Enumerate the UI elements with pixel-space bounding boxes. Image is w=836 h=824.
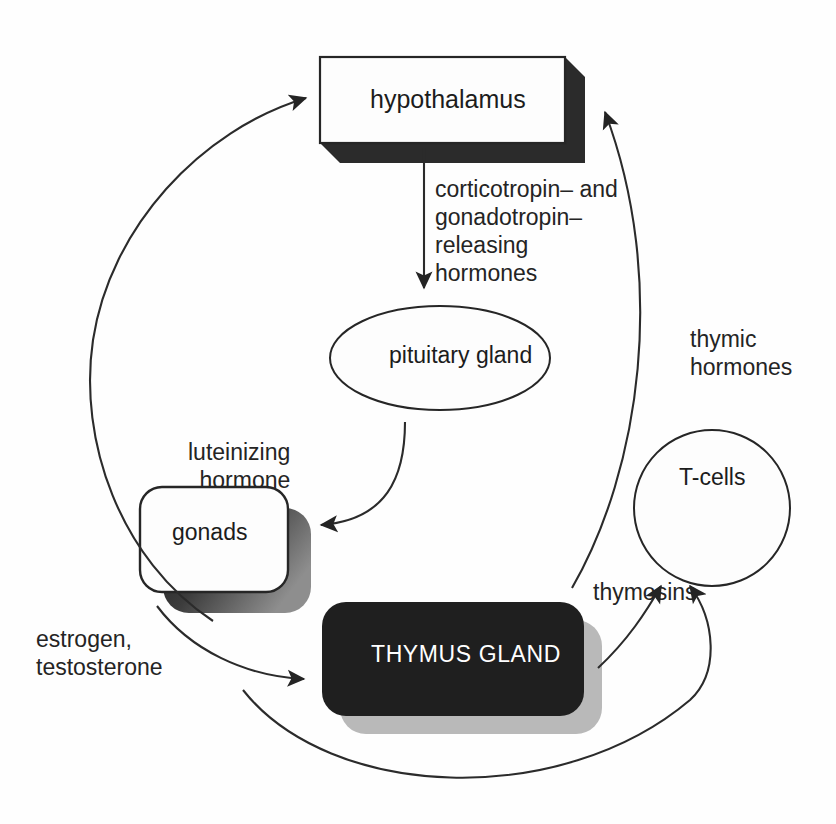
edge-gonads-to-thymus bbox=[157, 606, 304, 679]
node-hypothalamus[interactable] bbox=[320, 57, 585, 163]
estrogen-testosterone-label: estrogen, testosterone bbox=[36, 625, 163, 681]
node-pituitary[interactable] bbox=[330, 306, 564, 438]
pituitary-face bbox=[330, 306, 550, 410]
thymosins-label: thymosins bbox=[593, 578, 697, 606]
node-gonads[interactable] bbox=[140, 487, 311, 613]
node-tcells[interactable] bbox=[634, 430, 790, 586]
thymic-hormones-label: thymic hormones bbox=[690, 325, 792, 381]
tcells-face bbox=[634, 430, 790, 586]
edge-pituitary-to-gonads bbox=[321, 422, 405, 525]
diagram-vector-layer bbox=[0, 0, 836, 824]
diagram-canvas: hypothalamus pituitary gland gonads THYM… bbox=[0, 0, 836, 824]
releasing-hormones-label: corticotropin– and gonadotropin– releasi… bbox=[435, 175, 618, 287]
luteinizing-hormone-label: luteinizing hormone bbox=[188, 438, 290, 494]
hypothalamus-face bbox=[320, 57, 565, 143]
thymus-face bbox=[322, 602, 584, 716]
node-thymus[interactable] bbox=[322, 602, 602, 734]
